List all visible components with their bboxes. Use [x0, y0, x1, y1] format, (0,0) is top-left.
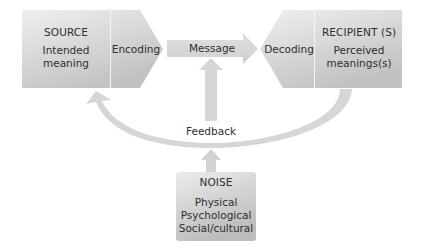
message-label: Message	[172, 42, 252, 55]
noise-line-psychological: Psychological	[176, 209, 256, 222]
decoding-label: Decoding	[264, 43, 314, 56]
noise-title: NOISE	[176, 176, 256, 189]
feedback-up-arrow	[199, 58, 223, 121]
noise-up-arrow	[201, 149, 221, 172]
source-title: SOURCE	[22, 26, 110, 39]
noise-line-physical: Physical	[176, 196, 256, 209]
recipient-line-2: meanings(s)	[315, 57, 403, 70]
recipient-line-1: Perceived	[315, 44, 403, 57]
encoding-label: Encoding	[111, 43, 161, 56]
noise-line-social: Social/cultural	[176, 222, 256, 235]
feedback-label: Feedback	[170, 125, 252, 138]
source-line-1: Intended	[22, 44, 110, 57]
source-line-2: meaning	[22, 57, 110, 70]
recipient-title: RECIPIENT (S)	[315, 26, 403, 39]
feedback-curve-arrow	[86, 89, 352, 148]
